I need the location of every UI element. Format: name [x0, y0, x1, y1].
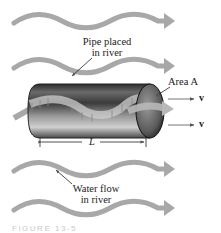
velocity-label-top: v: [199, 92, 204, 103]
flow-arrow-2: [14, 58, 175, 74]
pipe-label-line-1: Pipe placed: [72, 36, 142, 47]
pipe-label-line-2: in river: [72, 47, 142, 58]
velocity-label-bottom: v: [199, 118, 204, 129]
water-flow-label: Water flow in river: [66, 183, 126, 205]
figure-caption: FIGURE 13-5: [12, 224, 77, 233]
flow-arrow-1: [14, 13, 175, 29]
water-label-line-1: Water flow: [66, 183, 126, 194]
flow-arrow-3: [14, 161, 175, 177]
water-label-line-2: in river: [66, 194, 126, 205]
pipe: [28, 84, 174, 138]
length-label: L: [84, 136, 100, 147]
area-label: Area A: [168, 76, 218, 87]
pipe-label: Pipe placed in river: [72, 36, 142, 58]
